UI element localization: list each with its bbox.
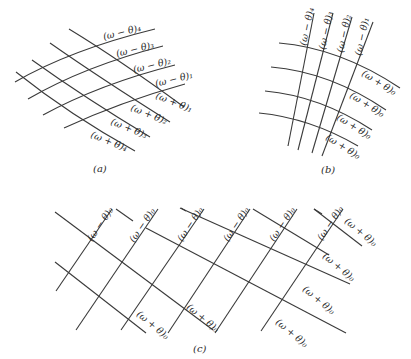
panel-c-plus-label-2: (ω + θ)₀ xyxy=(321,250,358,283)
panel-c-minus-label-2: (ω − θ)₀ xyxy=(127,206,158,244)
panel-a-minus-label-3: (ω − θ)₃ xyxy=(115,39,155,59)
panel-b-minus-label-1: (ω − θ)₁ xyxy=(352,16,371,56)
panel-c-plus-label-1: (ω + θ)₀ xyxy=(343,215,380,248)
panel-a-minus-label-4: (ω − θ)₄ xyxy=(102,22,142,42)
panel-c-plus-label-5: (ω + θ)₀ xyxy=(185,301,222,334)
panel-c-minus-label-6: (ω − θ)₀ xyxy=(315,204,346,242)
panel-a-minus-line-2 xyxy=(43,65,175,115)
panel-c-plus-line-3 xyxy=(146,228,346,333)
panel-b-minus-label-4: (ω − θ)₄ xyxy=(297,6,316,46)
panel-a-minus-label-2: (ω − θ)₂ xyxy=(132,55,172,75)
panel-c-top-tick-1 xyxy=(116,209,133,221)
panel-a-plus-label-2: (ω + θ)₂ xyxy=(129,102,169,127)
panel-b-minus-label-2: (ω − θ)₂ xyxy=(334,13,353,53)
panel-b: (ω − θ)₄ (ω − θ)₃ (ω − θ)₂ (ω − θ)₁ (ω +… xyxy=(259,6,400,175)
panel-c-top-tick-2 xyxy=(181,208,186,211)
panel-a-plus-label-4: (ω + θ)₄ xyxy=(89,129,129,154)
panel-c-minus-label-1: (ω − θ)₀ xyxy=(85,205,116,243)
panel-b-plus-label-1: (ω + θ)₀ xyxy=(360,67,399,97)
panel-c-plus-line-1 xyxy=(55,262,146,333)
panel-a-minus-label-1: (ω − θ)₁ xyxy=(154,69,194,89)
characteristics-figure: (ω − θ)₄ (ω − θ)₃ (ω − θ)₂ (ω − θ)₁ (ω +… xyxy=(0,0,411,359)
panel-c-minus-label-5: (ω − θ)₀ xyxy=(267,205,298,243)
panel-a-caption: (a) xyxy=(93,163,107,174)
panel-b-plus-label-4: (ω + θ)₀ xyxy=(324,131,363,161)
panel-c-caption: (c) xyxy=(193,343,207,354)
panel-c-top-tick-3 xyxy=(314,209,322,214)
panel-c-plus-line-4 xyxy=(180,208,350,284)
panel-c: (ω − θ)₀ (ω − θ)₀ (ω − θ)₀ (ω − θ)₀ (ω −… xyxy=(55,204,380,354)
panel-c-minus-label-3: (ω − θ)₀ xyxy=(175,205,206,243)
panel-b-caption: (b) xyxy=(321,164,335,175)
panel-b-minus-label-3: (ω − θ)₃ xyxy=(316,10,335,50)
panel-b-plus-label-2: (ω + θ)₀ xyxy=(348,89,387,119)
panel-a: (ω − θ)₄ (ω − θ)₃ (ω − θ)₂ (ω − θ)₁ (ω +… xyxy=(15,22,194,174)
panel-c-plus-label-6: (ω + θ)₀ xyxy=(135,308,172,341)
panel-c-plus-label-4: (ω + θ)₀ xyxy=(274,316,311,349)
panel-a-plus-label-1: (ω + θ)₁ xyxy=(154,90,194,115)
